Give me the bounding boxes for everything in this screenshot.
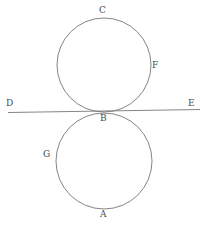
point-label-D: D: [6, 99, 13, 108]
point-label-E: E: [188, 99, 195, 108]
point-label-F: F: [152, 61, 158, 70]
point-label-G: G: [43, 150, 50, 159]
upper-circle: [57, 18, 151, 112]
point-label-A: A: [100, 210, 107, 219]
point-label-B: B: [100, 114, 107, 123]
lower-circle: [56, 113, 152, 209]
geometry-figure: C F D E B G A: [0, 0, 206, 228]
point-label-C: C: [99, 6, 106, 15]
